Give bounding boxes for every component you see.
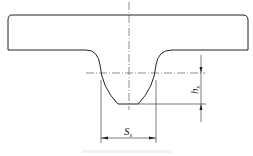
cross-section-drawing: Sx hx [0,0,253,156]
profile-outline [8,15,248,104]
height-label: hx [188,86,201,95]
width-label: Sx [124,125,133,138]
caption-faint [82,150,172,153]
